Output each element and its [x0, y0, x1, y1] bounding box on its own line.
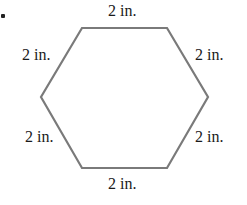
- label-top: 2 in.: [108, 3, 136, 19]
- label-bottom: 2 in.: [108, 176, 136, 192]
- label-upper-left: 2 in.: [22, 47, 50, 63]
- hexagon-shape: [41, 28, 208, 168]
- label-lower-left: 2 in.: [25, 129, 53, 145]
- label-lower-right: 2 in.: [195, 129, 223, 145]
- label-upper-right: 2 in.: [195, 47, 223, 63]
